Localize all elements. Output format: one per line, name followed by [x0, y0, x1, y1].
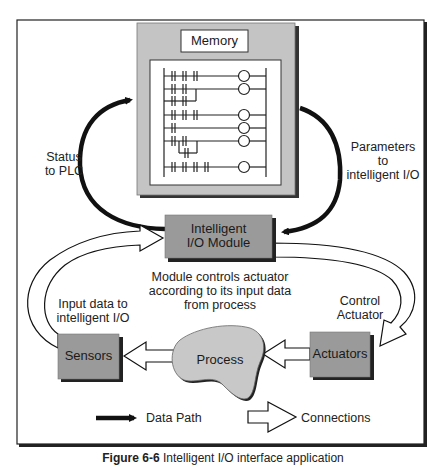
figure-number: Figure 6-6: [102, 451, 159, 465]
control-actuator-label: Control Actuator: [330, 294, 390, 322]
module-desc-line-1: Module controls actuator: [140, 270, 300, 284]
input-data-label: Input data to intelligent I/O: [48, 297, 138, 325]
module-description: Module controls actuator according to it…: [140, 270, 300, 312]
module-desc-line-2: according to its input data: [140, 284, 300, 298]
memory-block: [137, 23, 299, 198]
params-line-2: to: [340, 154, 426, 168]
actuators-label: Actuators: [310, 347, 370, 361]
figure-caption-text: Intelligent I/O interface application: [163, 451, 344, 465]
params-line-3: intelligent I/O: [340, 168, 426, 182]
input-line-1: Input data to: [48, 297, 138, 311]
connections-legend-label: Connections: [301, 411, 371, 425]
memory-label: Memory: [181, 34, 248, 48]
status-to-plc-label: Status to PLC: [34, 150, 94, 178]
sensors-label: Sensors: [58, 349, 119, 363]
status-line-2: to PLC: [34, 164, 94, 178]
data-path-legend-label: Data Path: [146, 411, 202, 425]
io-module-line-2: I/O Module: [165, 236, 272, 250]
params-line-1: Parameters: [340, 140, 426, 154]
control-line-1: Control: [330, 294, 390, 308]
parameters-label: Parameters to intelligent I/O: [340, 140, 426, 182]
status-line-1: Status: [34, 150, 94, 164]
io-module-line-1: Intelligent: [165, 222, 272, 236]
io-module-label: Intelligent I/O Module: [165, 222, 272, 250]
process-label: Process: [190, 353, 250, 367]
control-line-2: Actuator: [330, 308, 390, 322]
input-line-2: intelligent I/O: [48, 311, 138, 325]
module-desc-line-3: from process: [140, 298, 300, 312]
figure-caption: Figure 6-6 Intelligent I/O interface app…: [0, 451, 446, 465]
